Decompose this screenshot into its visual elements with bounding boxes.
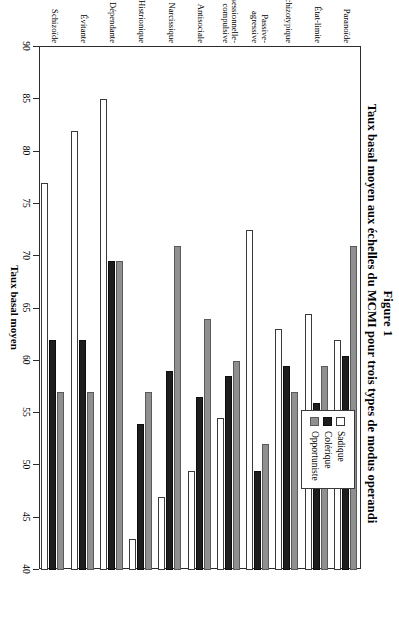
bar-opportuniste <box>233 361 240 570</box>
legend-swatch-icon <box>324 417 333 426</box>
axis-tick <box>33 360 39 361</box>
axis-tick-label: 80 <box>21 146 31 156</box>
axis-tick-label: 75 <box>21 198 31 208</box>
bar-colrique <box>49 340 56 570</box>
bar-opportuniste <box>204 319 211 570</box>
category-label: Schizotypique <box>284 0 293 43</box>
legend-item: Opportuniste <box>310 417 320 481</box>
plot-area <box>39 46 361 569</box>
bar-colrique <box>254 471 261 570</box>
axis-tick-label: 90 <box>21 41 31 51</box>
bar-opportuniste <box>350 246 357 570</box>
category-label: Passive-agressive <box>250 11 268 43</box>
bar-colrique <box>166 371 173 570</box>
axis-tick <box>33 308 39 309</box>
bar-sadique <box>158 497 165 570</box>
axis-tick-label: 50 <box>21 460 31 470</box>
category-label: Antisociale <box>196 4 205 43</box>
axis-tick <box>33 255 39 256</box>
bar-opportuniste <box>57 392 64 570</box>
axis-tick-label: 55 <box>21 407 31 417</box>
category-band <box>243 47 272 568</box>
category-band <box>126 47 155 568</box>
figure-title-block: Figure 1 Taux basal moyen aux échelles d… <box>364 0 395 627</box>
axis-tick-label: 60 <box>21 355 31 365</box>
legend-item: Colérique <box>323 417 333 481</box>
axis-tick <box>33 151 39 152</box>
bar-sadique <box>41 183 48 570</box>
category-label: Paranoïde <box>342 9 351 43</box>
axis-tick-label: 85 <box>21 94 31 104</box>
category-band <box>155 47 184 568</box>
bar-opportuniste <box>291 392 298 570</box>
bar-sadique <box>71 131 78 570</box>
category-label: Histrionique <box>137 0 146 43</box>
legend-label: Sadique <box>336 431 346 462</box>
axis-tick <box>33 517 39 518</box>
legend-label: Colérique <box>323 431 333 468</box>
figure-page: Figure 1 Taux basal moyen aux échelles d… <box>0 0 399 627</box>
axis-tick <box>33 46 39 47</box>
rotated-figure-canvas: Figure 1 Taux basal moyen aux échelles d… <box>0 0 399 627</box>
category-band <box>301 47 330 568</box>
bar-sadique <box>188 471 195 570</box>
page-title: Taux basal moyen aux échelles du MCMI po… <box>364 0 380 627</box>
legend-item: Sadique <box>336 417 346 481</box>
category-band <box>97 47 126 568</box>
axis-tick-label: 45 <box>21 512 31 522</box>
bar-colrique <box>137 424 144 570</box>
category-label: Obsessionnelle-compulsive <box>221 0 239 43</box>
axis-tick <box>33 464 39 465</box>
axis-tick-label: 65 <box>21 303 31 313</box>
category-label: Évitante <box>79 14 88 43</box>
category-band <box>331 47 360 568</box>
category-label: Dépendante <box>108 2 117 43</box>
bar-colrique <box>79 340 86 570</box>
axis-tick <box>33 203 39 204</box>
bar-sadique <box>217 418 224 570</box>
category-band <box>38 47 67 568</box>
legend-swatch-icon <box>337 417 346 426</box>
bar-opportuniste <box>262 444 269 570</box>
bar-sadique <box>100 99 107 570</box>
category-label: Narcissique <box>167 2 176 43</box>
bar-opportuniste <box>87 392 94 570</box>
bar-colrique <box>108 261 115 570</box>
value-axis-title: Taux basal moyen <box>9 46 21 569</box>
bar-opportuniste <box>116 261 123 570</box>
legend-swatch-icon <box>311 417 320 426</box>
bar-sadique <box>246 230 253 570</box>
axis-tick <box>33 569 39 570</box>
category-axis: SchizoïdeÉvitanteDépendanteHistrioniqueN… <box>39 0 361 46</box>
figure-number: Figure 1 <box>380 0 395 627</box>
category-label: État-limite <box>313 6 322 43</box>
category-label: Schizoïde <box>49 9 58 43</box>
bar-colrique <box>196 397 203 570</box>
legend-label: Opportuniste <box>310 431 320 481</box>
bar-opportuniste <box>174 246 181 570</box>
bar-opportuniste <box>145 392 152 570</box>
bar-colrique <box>225 376 232 570</box>
category-band <box>184 47 213 568</box>
category-band <box>67 47 96 568</box>
axis-tick-label: 70 <box>21 250 31 260</box>
axis-tick <box>33 98 39 99</box>
axis-tick-label: 40 <box>21 564 31 574</box>
axis-tick <box>33 412 39 413</box>
legend: SadiqueColériqueOpportuniste <box>301 410 355 489</box>
bar-colrique <box>283 366 290 570</box>
category-band <box>272 47 301 568</box>
bar-sadique <box>275 329 282 570</box>
category-band <box>214 47 243 568</box>
bar-sadique <box>129 539 136 570</box>
